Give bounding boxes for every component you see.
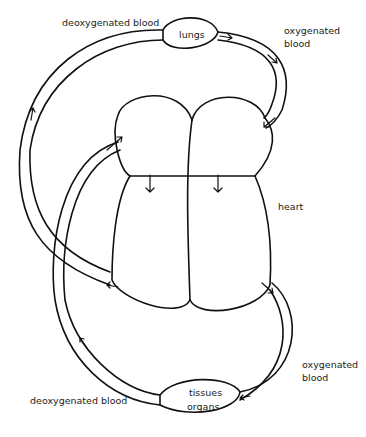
label-deoxygenated-bottom: deoxygenated blood [30, 395, 127, 406]
pulmonary-vein-inner [218, 40, 276, 118]
heart-left-ventricle [112, 176, 190, 308]
label-organs: organs [187, 401, 219, 412]
arrow-icon [240, 395, 250, 400]
pulmonary-artery-inner [30, 40, 163, 272]
arrow-icon [107, 282, 118, 288]
label-deoxygenated-top: deoxygenated blood [62, 17, 159, 28]
aorta-inner [240, 290, 283, 400]
label-heart: heart [278, 201, 304, 212]
arrow-icon [30, 108, 35, 120]
label-oxygenated-bottom-2: blood [302, 372, 328, 383]
label-oxygenated-top-2: blood [284, 38, 310, 49]
heart-right-ventricle [190, 176, 271, 311]
heart-left-atrium [115, 96, 192, 176]
circulation-diagram: deoxygenated blood lungs oxygenated bloo… [0, 0, 366, 437]
arrow-icon [80, 338, 87, 348]
label-oxygenated-top-1: oxygenated [284, 25, 340, 36]
heart-right-atrium [192, 97, 273, 176]
label-oxygenated-bottom-1: oxygenated [302, 359, 358, 370]
arrow-icon [214, 175, 222, 192]
label-lungs: lungs [179, 29, 205, 40]
arrow-icon [262, 283, 273, 293]
aorta-outer [240, 283, 292, 392]
vena-cava-inner [53, 142, 160, 405]
arrow-icon [146, 175, 154, 192]
arrow-icon [220, 34, 232, 40]
septum [188, 120, 192, 300]
label-tissues: tissues [189, 387, 222, 398]
